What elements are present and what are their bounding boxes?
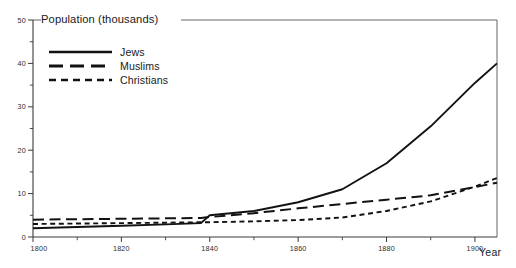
legend-label-jews: Jews: [120, 46, 145, 58]
y-tick-label: 20: [18, 146, 26, 155]
chart-title: Population (thousands): [41, 13, 158, 25]
legend-label-muslims: Muslims: [120, 60, 160, 72]
y-tick-label: 50: [18, 16, 26, 25]
x-axis-tick-labels: 180018201840186018801900: [31, 244, 484, 253]
data-series-group: [33, 63, 497, 228]
series-line-christians: [33, 178, 497, 224]
legend-item-christians: Christians: [49, 74, 168, 86]
x-tick-label: 1880: [378, 244, 395, 253]
legend-item-jews: Jews: [49, 46, 145, 58]
legend-item-muslims: Muslims: [49, 60, 160, 72]
x-tick-label: 1820: [113, 244, 130, 253]
x-tick-label: 1800: [31, 244, 48, 253]
legend-label-christians: Christians: [120, 74, 168, 86]
y-axis-ticks: [28, 20, 33, 237]
population-line-chart: 01020304050 180018201840186018801900 Pop…: [0, 0, 516, 268]
y-tick-label: 30: [18, 102, 26, 111]
x-tick-label: 1860: [290, 244, 307, 253]
x-axis-ticks: [33, 237, 475, 242]
y-tick-label: 10: [18, 189, 26, 198]
y-axis-tick-labels: 01020304050: [18, 16, 26, 242]
chart-canvas: 01020304050 180018201840186018801900 Pop…: [0, 0, 516, 268]
x-tick-label: 1840: [201, 244, 218, 253]
series-line-jews: [33, 63, 497, 228]
chart-legend: Jews Muslims Christians: [49, 46, 168, 86]
y-tick-label: 40: [18, 59, 26, 68]
x-axis-title: Year: [479, 246, 502, 258]
y-tick-label: 0: [22, 233, 26, 242]
